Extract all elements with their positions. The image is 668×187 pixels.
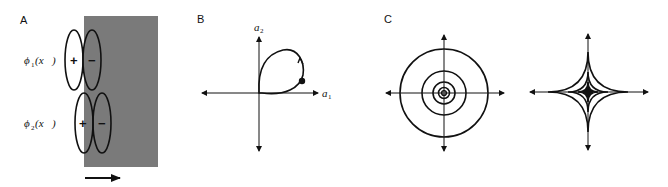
phi1-minus-sign: − xyxy=(88,53,96,68)
svg-text:2: 2 xyxy=(260,27,264,35)
trajectory-direction-arrow-icon xyxy=(298,58,303,64)
a2-axis-label: a 2 xyxy=(254,21,264,35)
panel-a-label: A xyxy=(20,14,28,26)
current-state-dot xyxy=(299,78,305,84)
svg-text:(x⃗): (x⃗) xyxy=(35,54,56,67)
trajectory-loop xyxy=(259,50,303,94)
circle-5 xyxy=(442,91,447,96)
phi2-plus-sign: + xyxy=(79,116,87,131)
panel-b: B a 1 a 2 xyxy=(197,13,332,151)
astroids-plot xyxy=(530,34,648,150)
panel-c: C xyxy=(384,13,648,151)
astroid-4 xyxy=(583,87,593,97)
svg-text:ϕ: ϕ xyxy=(24,117,30,129)
a1-axis-label: a 1 xyxy=(322,87,332,101)
svg-text:ϕ: ϕ xyxy=(24,54,30,66)
panel-a: A ϕ 1 (x⃗) + − ϕ 2 (x⃗) + − xyxy=(20,14,158,178)
svg-text:1: 1 xyxy=(328,93,332,101)
phi2-minus-sign: − xyxy=(98,116,106,131)
panel-c-label: C xyxy=(384,13,392,25)
phi1-plus-sign: + xyxy=(70,53,78,68)
phi2-label: ϕ 2 (x⃗) xyxy=(24,117,56,132)
concentric-circles-plot xyxy=(386,35,504,151)
figure-canvas: A ϕ 1 (x⃗) + − ϕ 2 (x⃗) + − B xyxy=(0,0,668,187)
svg-text:(x⃗): (x⃗) xyxy=(35,117,56,130)
phi1-label: ϕ 1 (x⃗) xyxy=(24,54,56,69)
panel-b-label: B xyxy=(197,13,204,25)
